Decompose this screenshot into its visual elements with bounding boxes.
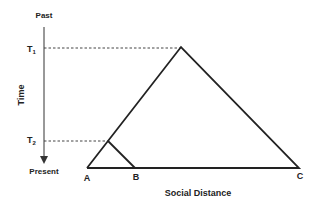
inner-branch-line (108, 141, 135, 168)
time-axis-title: Time (16, 85, 26, 106)
large-triangle (87, 47, 299, 168)
present-label: Present (29, 167, 59, 176)
x-axis-title: Social Distance (165, 188, 232, 198)
past-label: Past (36, 11, 53, 20)
time-axis-arrow-icon (40, 156, 48, 164)
point-c-label: C (297, 171, 304, 181)
t1-label: T1 (27, 44, 37, 55)
diagram-canvas: Past Present Time T1 T2 A B C Social Dis… (0, 0, 319, 209)
point-a-label: A (84, 173, 91, 183)
t2-label: T2 (27, 135, 37, 146)
point-b-label: B (133, 172, 140, 182)
